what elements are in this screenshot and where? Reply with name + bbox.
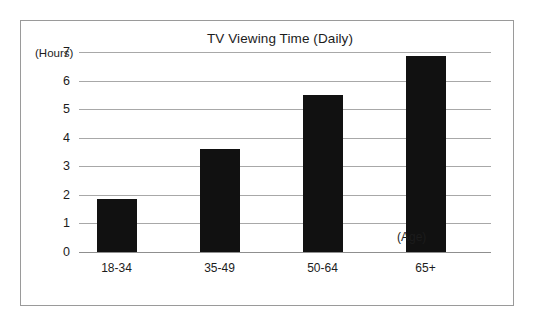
gridline-7 (79, 52, 491, 53)
y-tick-label-7: 7 (63, 45, 70, 59)
plot-area: 0123456718-3435-4950-6465+ (79, 52, 491, 252)
y-tick-label-3: 3 (63, 159, 70, 173)
bar-65+ (406, 56, 446, 252)
gridline-0 (79, 252, 491, 253)
x-tick-label-35-49: 35-49 (204, 261, 235, 275)
x-tick-label-18-34: 18-34 (101, 261, 132, 275)
x-axis-title: (Age) (397, 230, 426, 244)
bar-35-49 (200, 149, 240, 252)
y-tick-label-6: 6 (63, 74, 70, 88)
y-tick-label-4: 4 (63, 131, 70, 145)
bar-18-34 (97, 199, 137, 252)
y-tick-label-1: 1 (63, 216, 70, 230)
y-tick-label-5: 5 (63, 102, 70, 116)
x-tick-label-65+: 65+ (415, 261, 435, 275)
y-tick-label-0: 0 (63, 245, 70, 259)
y-tick-label-2: 2 (63, 188, 70, 202)
chart-figure: TV Viewing Time (Daily) (Hours) 01234567… (20, 20, 514, 306)
x-tick-label-50-64: 50-64 (307, 261, 338, 275)
bar-50-64 (303, 95, 343, 252)
chart-title: TV Viewing Time (Daily) (21, 31, 513, 46)
